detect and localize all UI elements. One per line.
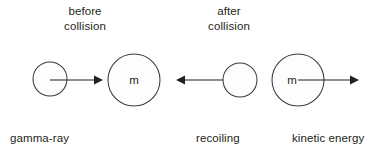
mass-before-label: m [129, 74, 139, 86]
caption-incoming-gamma-ray: gamma-ray energy E [10, 116, 114, 159]
caption-recoiling-gamma-ray: recoiling gamma-ray [196, 116, 278, 159]
caption-gamma-ray-line1: gamma-ray [10, 132, 69, 144]
incoming-gamma-ray-arrowhead [94, 76, 103, 85]
recoiling-gamma-ray-circle [223, 63, 257, 97]
physics-collision-diagram: before collision after collision m m gam… [0, 0, 389, 159]
mass-after-label: m [287, 74, 297, 86]
caption-kinetic-line1: kinetic energy [292, 132, 364, 144]
recoiling-gamma-ray-arrowhead [176, 76, 185, 85]
caption-kinetic-energy: kinetic energy Km [292, 116, 388, 159]
incoming-gamma-ray-circle [33, 62, 67, 96]
mass-recoil-arrowhead [350, 76, 359, 85]
caption-recoiling-line1: recoiling [196, 132, 240, 144]
